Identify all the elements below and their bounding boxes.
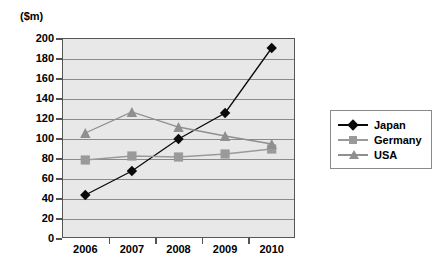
y-axis-tick-mark: [56, 198, 62, 200]
data-point-germany-2007: [127, 151, 136, 160]
x-axis-tick-label: 2010: [259, 243, 283, 255]
data-point-usa-2007: [127, 107, 137, 117]
y-axis-tick-mark: [56, 38, 62, 40]
y-axis-tick-mark: [56, 138, 62, 140]
legend-glyph-wrap: [349, 121, 357, 129]
y-axis-tick-label: 100: [36, 132, 54, 144]
data-point-germany-2009: [221, 149, 230, 158]
legend-marker-japan-icon: [338, 118, 368, 132]
legend-item-germany[interactable]: Germany: [338, 132, 422, 147]
legend-item-japan[interactable]: Japan: [338, 117, 422, 132]
y-axis-tick-label: 180: [36, 52, 54, 64]
y-axis-tick-mark: [56, 178, 62, 180]
legend-label: Germany: [374, 134, 422, 146]
legend-glyph-wrap: [349, 151, 359, 159]
y-axis-tick-mark: [56, 218, 62, 220]
legend-glyph-square-icon: [349, 136, 357, 144]
legend-marker-usa-icon: [338, 148, 368, 162]
series-layer: [62, 38, 295, 238]
data-point-germany-2008: [174, 152, 183, 161]
x-axis-tick-label: 2006: [73, 243, 97, 255]
series-line-japan: [85, 48, 271, 195]
legend-glyph-diamond-icon: [347, 119, 358, 130]
y-axis-tick-mark: [56, 158, 62, 160]
legend-glyph-triangle-icon: [349, 150, 359, 159]
y-axis-tick-label: 200: [36, 32, 54, 44]
data-point-japan-2006: [80, 190, 90, 200]
y-axis-tick-label: 40: [42, 192, 54, 204]
legend-label: Japan: [374, 119, 406, 131]
legend-marker-germany-icon: [338, 133, 368, 147]
x-axis-tick-label: 2008: [166, 243, 190, 255]
data-point-japan-2007: [127, 166, 137, 176]
x-axis-tick-mark: [109, 238, 111, 244]
legend-item-usa[interactable]: USA: [338, 147, 422, 162]
y-axis-tick-label: 140: [36, 92, 54, 104]
data-point-germany-2006: [81, 155, 90, 164]
y-axis-tick-label: 0: [48, 232, 54, 244]
y-axis-tick-label: 20: [42, 212, 54, 224]
x-axis-tick-mark: [202, 238, 204, 244]
y-axis-tick-mark: [56, 118, 62, 120]
chart-legend: JapanGermanyUSA: [330, 110, 432, 169]
data-point-japan-2009: [220, 108, 230, 118]
data-point-japan-2008: [173, 134, 183, 144]
legend-glyph-wrap: [349, 136, 357, 144]
y-axis-tick-label: 160: [36, 72, 54, 84]
legend-label: USA: [374, 149, 397, 161]
y-axis-tick-mark: [56, 58, 62, 60]
y-axis-unit-label: ($m): [20, 10, 43, 22]
x-axis-tick-labels: 20062007200820092010: [62, 243, 295, 263]
x-axis-tick-mark: [248, 238, 250, 244]
data-point-usa-2008: [173, 122, 183, 132]
y-axis-tick-mark: [56, 78, 62, 80]
y-axis-tick-label: 80: [42, 152, 54, 164]
y-axis-tick-mark: [56, 238, 62, 240]
line-chart: ($m) 020406080100120140160180200 2006200…: [0, 0, 441, 272]
data-point-japan-2010: [267, 43, 277, 53]
y-axis-tick-mark: [56, 98, 62, 100]
y-axis-tick-label: 60: [42, 172, 54, 184]
data-point-usa-2006: [80, 128, 90, 138]
x-axis-tick-mark: [155, 238, 157, 244]
x-axis-tick-label: 2009: [213, 243, 237, 255]
y-axis-tick-labels: 020406080100120140160180200: [0, 38, 54, 238]
x-axis-tick-label: 2007: [120, 243, 144, 255]
y-axis-tick-label: 120: [36, 112, 54, 124]
